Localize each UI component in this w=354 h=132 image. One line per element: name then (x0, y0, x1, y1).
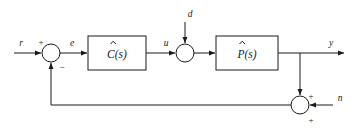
plant-label-suffix: (s) (244, 48, 256, 61)
plant-block-label: P(s) (236, 48, 256, 61)
signal-label-noise: n (338, 93, 343, 103)
signal-label-reference: r (19, 38, 23, 48)
controller-label-suffix: (s) (115, 48, 127, 61)
error-junction-minus-sign: − (59, 62, 64, 72)
controller-block-label: C(s) (107, 48, 127, 61)
signal-label-error: e (70, 38, 74, 48)
plant-label-base: P (236, 48, 244, 60)
control-system-diagram: C(s) P(s) + − + + r e u d y n (0, 0, 354, 132)
signal-label-output: y (328, 38, 334, 48)
noise-junction-plus-sign-bottom: + (308, 115, 313, 125)
error-summing-junction[interactable] (42, 44, 60, 62)
noise-summing-junction[interactable] (291, 96, 309, 114)
disturbance-summing-junction[interactable] (176, 44, 194, 62)
noise-junction-plus-sign-top: + (308, 91, 313, 101)
signal-label-disturbance: d (188, 9, 193, 19)
error-junction-plus-sign: + (38, 37, 43, 47)
block-diagram-canvas: C(s) P(s) + − + + r e u d y n (0, 0, 354, 132)
signal-label-control: u (164, 38, 169, 48)
